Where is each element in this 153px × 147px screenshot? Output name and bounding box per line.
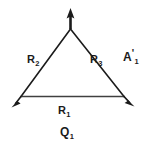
triangle-diagram-svg (0, 0, 153, 147)
label-a-prime-1: A'1 (123, 48, 138, 64)
label-r2-subscript: 2 (35, 59, 39, 68)
label-r3-base: R (90, 53, 98, 65)
label-q1-subscript: 1 (70, 132, 74, 141)
label-a1-subscript: 1 (134, 57, 138, 66)
label-r1-subscript: 1 (66, 110, 70, 119)
label-r1-base: R (58, 104, 66, 116)
label-a1-base: A (123, 50, 132, 64)
label-q1-base: Q (60, 125, 69, 139)
label-r3: R3 (90, 50, 102, 66)
label-r3-subscript: 3 (98, 59, 102, 68)
vector-triangle-figure: R1 R2 R3 A'1 Q1 (0, 0, 153, 147)
label-r2-base: R (27, 53, 35, 65)
bottom-right-arrow-head (124, 97, 134, 107)
label-r1: R1 (58, 101, 70, 117)
label-r2: R2 (27, 50, 39, 66)
label-q1: Q1 (60, 123, 74, 139)
